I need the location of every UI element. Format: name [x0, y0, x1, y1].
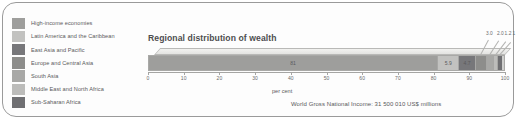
legend-swatch-south-asia — [12, 70, 25, 81]
axis-tick-label: 20 — [217, 75, 223, 81]
legend-label: Europe and Central Asia — [31, 60, 93, 66]
legend-swatch-high-income — [12, 18, 25, 29]
bar-top-face — [154, 48, 511, 55]
bar-segment — [498, 56, 502, 70]
axis-tick — [505, 72, 506, 75]
legend-label: High-income economies — [31, 20, 92, 26]
callout-label: 2.0 — [497, 31, 504, 36]
axis-tick-label: 100 — [501, 75, 509, 81]
legend-swatch-latin-america — [12, 31, 25, 42]
axis-tick — [327, 72, 328, 75]
bar-segment — [487, 56, 494, 70]
axis-tick-label: 10 — [181, 75, 187, 81]
legend-item: East Asia and Pacific — [12, 43, 140, 56]
axis-tick-label: 40 — [288, 75, 294, 81]
axis-tick — [184, 72, 185, 75]
callout-label: 3.0 — [486, 31, 493, 36]
axis-tick — [219, 72, 220, 75]
legend-item: South Asia — [12, 70, 140, 83]
x-axis-label: per cent — [272, 88, 292, 94]
legend-swatch-europe-central-asia — [12, 57, 25, 68]
chart-area: Regional distribution of wealth 815.94.7… — [143, 3, 515, 118]
axis-tick — [398, 72, 399, 75]
axis-tick — [362, 72, 363, 75]
x-axis: 0102030405060708090100 — [148, 72, 505, 88]
legend-item: Europe and Central Asia — [12, 57, 140, 70]
callout-label: 1 — [513, 31, 516, 36]
chart-panel: High-income economies Latin America and … — [2, 2, 514, 117]
legend-label: East Asia and Pacific — [31, 47, 85, 53]
stacked-bar: 815.94.7 0102030405060708090100 per cent… — [148, 48, 506, 78]
legend-label: Middle East and North Africa — [31, 86, 104, 92]
bar-front-face: 815.94.7 — [148, 55, 505, 71]
axis-tick — [291, 72, 292, 75]
axis-tick — [255, 72, 256, 75]
axis-tick-label: 0 — [147, 75, 150, 81]
axis-tick-label: 30 — [252, 75, 258, 81]
axis-tick — [469, 72, 470, 75]
axis-tick-label: 80 — [431, 75, 437, 81]
axis-tick-label: 70 — [395, 75, 401, 81]
bar-segment — [476, 56, 487, 70]
bar-segment: 81 — [149, 56, 438, 70]
bar-segment-label: 4.7 — [464, 60, 471, 66]
bar-segment: 5.9 — [438, 56, 459, 70]
legend-item: High-income economies — [12, 17, 140, 30]
legend-item: Sub-Saharan Africa — [12, 96, 140, 109]
legend-label: South Asia — [31, 73, 58, 79]
legend-item: Middle East and North Africa — [12, 83, 140, 96]
legend-swatch-sub-saharan — [12, 97, 25, 108]
callout-label: 1.2 — [505, 31, 512, 36]
bar-segment-label: 81 — [290, 60, 296, 66]
chart-title: Regional distribution of wealth — [148, 33, 277, 43]
axis-tick-label: 50 — [324, 75, 330, 81]
legend-swatch-middle-east — [12, 84, 25, 95]
axis-tick — [148, 72, 149, 75]
chart-caption: World Gross National Income: 31 500 010 … — [291, 101, 441, 107]
bar-segment: 4.7 — [459, 56, 476, 70]
axis-tick-label: 90 — [466, 75, 472, 81]
legend-label: Sub-Saharan Africa — [31, 99, 81, 105]
bar-segment-label: 5.9 — [445, 60, 452, 66]
legend: High-income economies Latin America and … — [12, 17, 140, 109]
axis-tick — [434, 72, 435, 75]
axis-tick-label: 60 — [359, 75, 365, 81]
legend-item: Latin America and the Caribbean — [12, 30, 140, 43]
legend-label: Latin America and the Caribbean — [31, 33, 115, 39]
legend-swatch-east-asia — [12, 44, 25, 55]
